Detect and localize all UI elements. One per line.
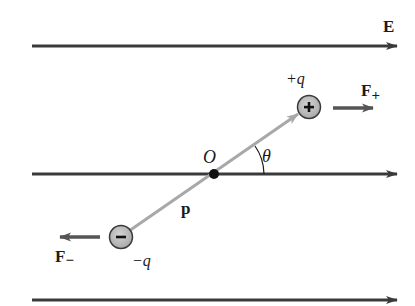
dipole-diagram: E θ O p +q F+ −q xyxy=(0,0,415,306)
force-positive-label: F+ xyxy=(361,81,380,103)
positive-charge xyxy=(298,96,321,119)
dipole-moment-label: p xyxy=(181,199,190,218)
origin-point xyxy=(209,169,219,179)
negative-charge xyxy=(110,226,133,249)
minus-icon xyxy=(116,236,126,239)
field-label: E xyxy=(383,17,394,36)
negative-charge-label: −q xyxy=(132,252,151,270)
angle-label: θ xyxy=(262,146,271,166)
positive-charge-label: +q xyxy=(286,70,305,88)
origin-label: O xyxy=(203,147,216,167)
force-negative-label: F− xyxy=(55,247,74,268)
